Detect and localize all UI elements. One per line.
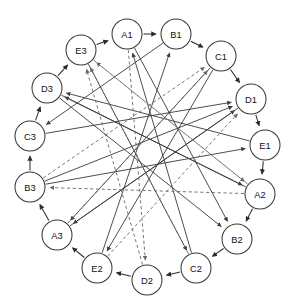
chord-edge: [133, 53, 192, 252]
chord-edge: [65, 97, 246, 187]
graph-node-b1[interactable]: B1: [161, 19, 191, 49]
chord-edge: [66, 93, 249, 141]
graph-node-c3[interactable]: C3: [15, 121, 45, 151]
node-label: B2: [231, 235, 242, 245]
ring-edge: [166, 272, 180, 275]
ring-edge: [72, 248, 84, 258]
chord-edge: [46, 149, 246, 185]
node-label: E3: [75, 46, 86, 56]
chord-edge: [50, 188, 244, 194]
ring-edge: [246, 209, 252, 221]
ring-edge: [256, 115, 259, 126]
graph-node-a3[interactable]: A3: [42, 220, 72, 250]
node-layer: A1B1C1D1E1A2B2C2D2E2A3B3C3D3E3: [15, 19, 280, 295]
graph-node-d2[interactable]: D2: [132, 265, 162, 295]
ring-edge: [40, 204, 49, 220]
ring-edge: [97, 41, 109, 45]
chord-edge-layer: [43, 43, 249, 264]
graph-node-b3[interactable]: B3: [15, 172, 45, 202]
graph-node-e3[interactable]: E3: [66, 35, 96, 65]
graph-node-c1[interactable]: C1: [206, 41, 236, 71]
chord-edge: [107, 70, 213, 251]
node-label: C3: [24, 132, 36, 142]
chord-edge: [73, 108, 238, 223]
node-label: C1: [215, 52, 227, 62]
ring-edge: [191, 41, 203, 47]
chord-edge: [87, 69, 143, 264]
ring-edge: [58, 65, 68, 76]
node-label: B1: [170, 30, 181, 40]
node-label: A3: [51, 231, 62, 241]
graph-node-d1[interactable]: D1: [236, 84, 266, 114]
ring-edge: [230, 70, 239, 83]
node-label: D2: [141, 276, 153, 286]
ring-edge: [116, 273, 131, 276]
node-label: B3: [24, 183, 35, 193]
node-label: A2: [254, 190, 265, 200]
node-label: C2: [190, 264, 202, 274]
chord-edge: [46, 43, 162, 124]
diagram-canvas: A1B1C1D1E1A2B2C2D2E2A3B3C3D3E3: [0, 0, 292, 303]
ring-edge: [36, 107, 41, 121]
graph-node-e2[interactable]: E2: [82, 253, 112, 283]
node-label: E1: [259, 141, 270, 151]
graph-node-d3[interactable]: D3: [32, 73, 62, 103]
ring-edge: [262, 161, 263, 174]
chord-edge: [108, 114, 238, 256]
graph-node-a2[interactable]: A2: [245, 179, 275, 209]
node-label: D3: [41, 84, 53, 94]
graph-node-b2[interactable]: B2: [222, 224, 252, 254]
node-label: D1: [245, 95, 257, 105]
ring-edge: [212, 249, 223, 257]
chord-edge: [102, 53, 169, 253]
node-label: A1: [121, 30, 132, 40]
circular-graph-svg: A1B1C1D1E1A2B2C2D2E2A3B3C3D3E3: [0, 0, 292, 303]
node-label: E2: [91, 264, 102, 274]
graph-node-c2[interactable]: C2: [181, 253, 211, 283]
graph-node-a1[interactable]: A1: [112, 19, 142, 49]
graph-node-e1[interactable]: E1: [250, 130, 280, 160]
